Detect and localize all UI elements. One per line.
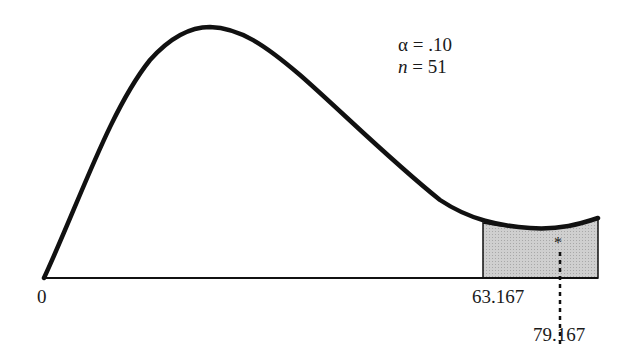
n-value: = 51 [408, 56, 447, 77]
chi-square-chart [0, 0, 628, 358]
x-tick-test-statistic: 79.167 [533, 324, 585, 346]
x-tick-zero: 0 [37, 286, 47, 308]
x-tick-critical-value: 63.167 [472, 286, 524, 308]
n-variable: n [398, 56, 408, 77]
n-annotation: n = 51 [398, 56, 447, 78]
alpha-annotation: α = .10 [398, 34, 452, 56]
test-statistic-marker: * [554, 234, 562, 252]
